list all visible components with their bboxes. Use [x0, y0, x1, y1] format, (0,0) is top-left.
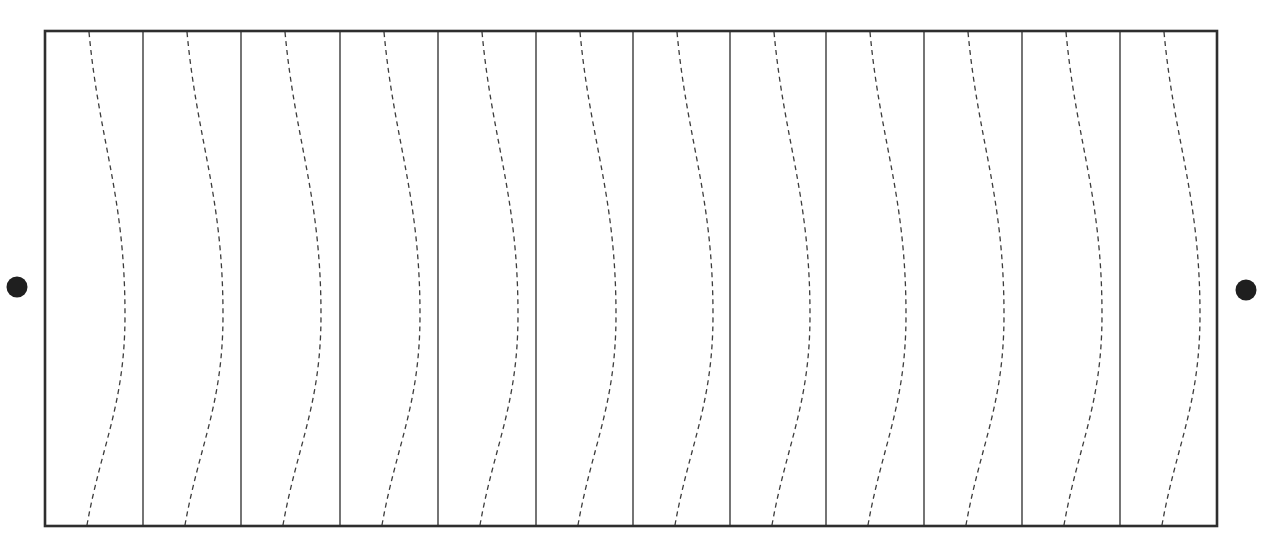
- dashed-curve-cell-3: [283, 32, 321, 525]
- dashed-curve-cell-6: [578, 32, 616, 525]
- dashed-curves: [87, 32, 1200, 525]
- cell-dividers: [143, 31, 1120, 526]
- dashed-curve-cell-1: [87, 32, 125, 525]
- dashed-curve-cell-12: [1162, 32, 1200, 525]
- dashed-curve-cell-9: [868, 32, 906, 525]
- dashed-curve-cell-11: [1064, 32, 1102, 525]
- dashed-curve-cell-5: [480, 32, 518, 525]
- dashed-curve-cell-4: [382, 32, 420, 525]
- dashed-curve-cell-10: [966, 32, 1004, 525]
- dashed-curve-cell-2: [185, 32, 223, 525]
- strip-diagram: [0, 0, 1275, 554]
- outer-frame: [45, 31, 1217, 526]
- dashed-curve-cell-7: [675, 32, 713, 525]
- left-terminal-dot: [7, 277, 28, 298]
- right-terminal-dot: [1236, 280, 1257, 301]
- dashed-curve-cell-8: [772, 32, 810, 525]
